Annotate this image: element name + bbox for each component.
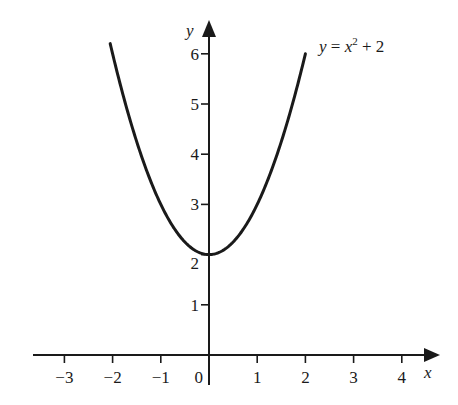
ticks: −3−2−101234123456 [55,45,406,387]
x-axis-arrow-icon [424,348,440,362]
y-tick-label: 6 [191,45,200,64]
axes [33,20,440,385]
x-tick-label: 2 [301,368,310,387]
parabola-chart: −3−2−101234123456 y x y = x2 + 2 [0,0,458,405]
x-tick-label: 4 [398,368,407,387]
x-tick-label: −3 [55,368,73,387]
y-tick-label: 3 [191,195,200,214]
curve-equation-label: y = x2 + 2 [317,35,384,56]
x-axis-label: x [423,363,432,382]
y-tick-label: 4 [191,145,200,164]
y-axis-arrow-icon [202,20,216,37]
y-axis-label: y [184,21,194,40]
y-tick-label: 5 [191,95,200,114]
x-tick-label: 3 [349,368,358,387]
y-tick-label: 2 [191,254,200,273]
x-tick-label: 0 [195,368,204,387]
parabola-curve [110,44,305,255]
x-tick-label: −2 [104,368,122,387]
y-tick-label: 1 [191,296,200,315]
x-tick-label: 1 [253,368,262,387]
x-tick-label: −1 [152,368,170,387]
